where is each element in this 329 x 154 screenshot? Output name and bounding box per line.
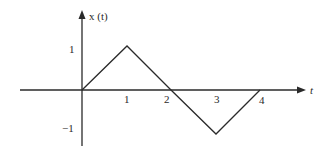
signal-diagram: x (t) t 1 2 3 4 1 −1 <box>0 0 329 154</box>
y-tick-neg1: −1 <box>62 122 74 134</box>
y-axis-arrow-icon <box>79 10 86 19</box>
y-axis-label: x (t) <box>89 10 108 23</box>
y-tick-1: 1 <box>69 43 75 55</box>
x-tick-2: 2 <box>164 93 170 105</box>
t-axis-arrow-icon <box>297 87 306 94</box>
x-tick-1: 1 <box>124 93 130 105</box>
x-axis-label: t <box>310 84 314 96</box>
x-tick-4: 4 <box>259 94 265 106</box>
x-tick-3: 3 <box>214 93 220 105</box>
